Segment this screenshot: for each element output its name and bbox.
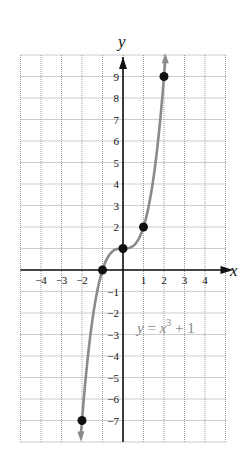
- y-tick-label: −2: [107, 307, 119, 319]
- y-tick-label: −4: [107, 350, 119, 362]
- y-tick-label: 6: [114, 135, 120, 147]
- x-tick-label: 4: [202, 274, 208, 286]
- y-tick-label: 2: [114, 221, 120, 233]
- y-tick-label: 4: [114, 178, 120, 190]
- x-tick-label: 2: [161, 274, 167, 286]
- y-tick-label: 9: [114, 71, 120, 83]
- eq-rest: + 1: [171, 320, 194, 336]
- y-tick-label: 3: [114, 200, 120, 212]
- data-point: [78, 416, 87, 425]
- x-tick-label: 1: [141, 274, 147, 286]
- x-tick-label: −4: [35, 274, 47, 286]
- y-tick-label: 7: [114, 114, 120, 126]
- y-tick-label: 8: [114, 92, 120, 104]
- y-tick-label: −5: [107, 372, 119, 384]
- data-point: [160, 72, 169, 81]
- y-tick-label: 5: [114, 157, 120, 169]
- y-tick-label: −7: [107, 415, 119, 427]
- eq-equals: =: [144, 320, 160, 336]
- data-point: [139, 223, 148, 232]
- x-axis-label: x: [229, 261, 238, 280]
- equation-label: y = x3 + 1: [135, 317, 195, 336]
- y-tick-label: −3: [107, 329, 119, 341]
- cubic-function-graph: −4−3−2123498765432−1−2−3−4−5−6−7 y x y =…: [0, 0, 245, 466]
- data-point: [98, 266, 107, 275]
- x-tick-label: −2: [76, 274, 88, 286]
- data-point: [119, 244, 128, 253]
- y-tick-label: −6: [107, 393, 119, 405]
- eq-y: y: [135, 320, 144, 336]
- x-tick-label: −3: [56, 274, 68, 286]
- y-axis-arrow-icon: [119, 57, 127, 69]
- x-tick-label: 3: [182, 274, 188, 286]
- y-axis-label: y: [116, 32, 126, 51]
- y-tick-label: −1: [107, 286, 119, 298]
- curve-arrow-down-icon: [77, 432, 84, 442]
